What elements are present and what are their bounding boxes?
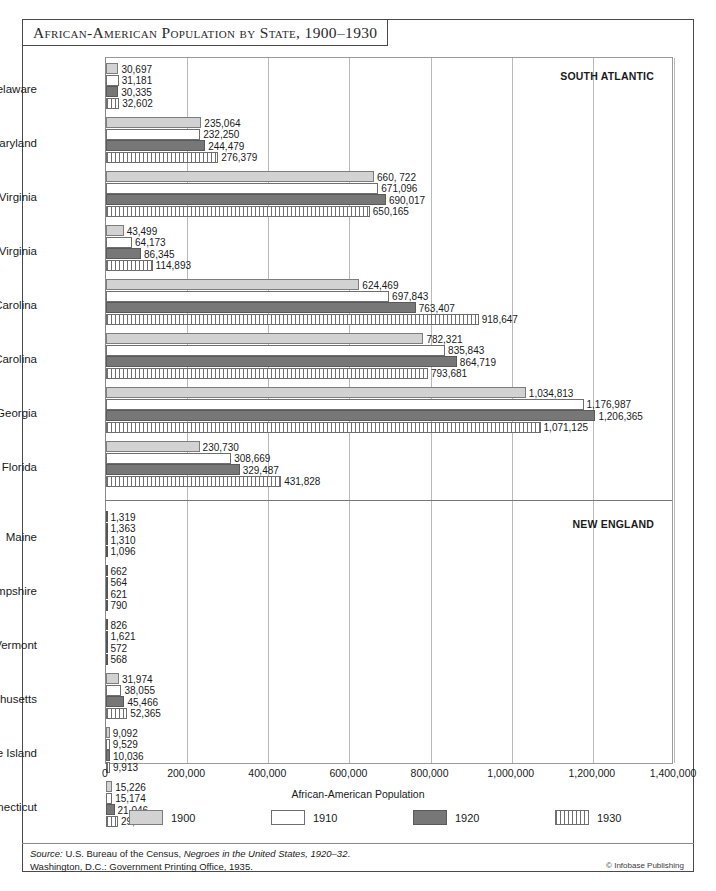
bar-value-label: 1,034,813: [529, 388, 574, 399]
bar-value-label: 1,071,125: [544, 422, 589, 433]
source-suffix: .: [347, 848, 350, 859]
bar-value-label: 64,173: [135, 237, 166, 248]
source-note: Source: U.S. Bureau of the Census, Negro…: [30, 847, 350, 873]
bar-1920: [106, 194, 386, 205]
source-title-italic: Negroes in the United States, 1920–32: [184, 848, 348, 859]
bar-value-label: 31,181: [122, 75, 153, 86]
bar-value-label: 621: [111, 589, 128, 600]
chart-page: African-American Population by State, 19…: [0, 0, 716, 891]
legend-item-1910: 1910: [247, 810, 389, 825]
bar-1900: [106, 171, 374, 182]
bar-value-label: 31,974: [122, 674, 153, 685]
bar-value-label: 568: [111, 654, 128, 665]
source-mid: U.S. Bureau of the Census,: [63, 848, 184, 859]
bar-value-label: 1,310: [111, 535, 136, 546]
state-label: South Carolina: [0, 353, 37, 365]
legend-swatch-1920: [413, 810, 447, 825]
bar-1900: [106, 387, 526, 398]
bar-1920: [106, 642, 108, 653]
source-line2: Washington, D.C.: Government Printing Of…: [30, 860, 350, 873]
x-tick-label: 600,000: [329, 767, 367, 779]
legend-swatch-1910: [271, 810, 305, 825]
bar-1920: [106, 140, 205, 151]
bar-value-label: 276,379: [221, 152, 257, 163]
legend-swatch-1930: [555, 810, 589, 825]
legend-label-1920: 1920: [455, 812, 479, 824]
x-tick-label: 1,400,000: [650, 767, 697, 779]
bar-1930: [106, 152, 218, 163]
bar-value-label: 1,621: [111, 631, 136, 642]
legend-swatch-1900: [129, 810, 163, 825]
bar-1910: [106, 453, 231, 464]
bar-value-label: 235,064: [204, 118, 240, 129]
bar-value-label: 671,096: [381, 183, 417, 194]
state-label: Maryland: [0, 137, 37, 149]
bar-1930: [106, 260, 153, 271]
x-tick-label: 1,000,000: [487, 767, 534, 779]
legend-label-1900: 1900: [171, 812, 195, 824]
bar-value-label: 650,165: [373, 206, 409, 217]
chart-legend: 1900191019201930: [105, 810, 673, 825]
x-tick-label: 800,000: [411, 767, 449, 779]
bar-value-label: 826: [111, 620, 128, 631]
bar-1900: [106, 117, 201, 128]
bar-1920: [106, 696, 124, 707]
region-separator: [106, 500, 672, 501]
bar-1920: [106, 302, 416, 313]
bar-value-label: 1,319: [111, 512, 136, 523]
bar-1920: [106, 588, 108, 599]
bar-1900: [106, 441, 200, 452]
bar-1900: [106, 333, 423, 344]
bar-value-label: 624,469: [362, 280, 398, 291]
bar-1900: [106, 673, 119, 684]
bar-value-label: 38,055: [124, 685, 155, 696]
bar-value-label: 431,828: [284, 476, 320, 487]
state-label: Massachusetts: [0, 693, 37, 705]
bar-value-label: 918,647: [482, 314, 518, 325]
bar-1900: [106, 279, 359, 290]
legend-label-1910: 1910: [313, 812, 337, 824]
publisher-credit: © Infobase Publishing: [606, 861, 684, 870]
bar-value-label: 52,365: [130, 708, 161, 719]
plot-area: SOUTH ATLANTIC30,69731,18130,33532,60223…: [105, 57, 673, 764]
bar-1920: [106, 248, 141, 259]
source-label: Source:: [30, 848, 63, 859]
state-label: Delaware: [0, 83, 37, 95]
bar-value-label: 660, 722: [377, 172, 416, 183]
bar-1920: [106, 464, 240, 475]
bar-1900: [106, 727, 110, 738]
bar-1930: [106, 314, 479, 325]
bar-value-label: 790: [111, 600, 128, 611]
x-axis-title: African-American Population: [0, 788, 716, 800]
bar-value-label: 244,479: [208, 141, 244, 152]
region-label: SOUTH ATLANTIC: [560, 70, 654, 82]
chart-title-box: African-American Population by State, 19…: [22, 19, 388, 46]
bar-value-label: 230,730: [203, 442, 239, 453]
bar-value-label: 10,036: [113, 751, 144, 762]
region-label: NEW ENGLAND: [572, 518, 654, 530]
bar-value-label: 835,843: [448, 345, 484, 356]
bar-1900: [106, 63, 118, 74]
bar-value-label: 43,499: [127, 226, 158, 237]
bar-1910: [106, 685, 121, 696]
bar-1920: [106, 356, 457, 367]
bar-1910: [106, 577, 108, 588]
bar-value-label: 232,250: [203, 129, 239, 140]
bar-value-label: 763,407: [419, 303, 455, 314]
state-label: North Carolina: [0, 299, 37, 311]
bar-1910: [106, 739, 110, 750]
state-label: Florida: [0, 461, 37, 473]
bar-1930: [106, 708, 127, 719]
bar-1900: [106, 225, 124, 236]
bar-1910: [106, 75, 119, 86]
state-label: Vermont: [0, 639, 37, 651]
bar-1910: [106, 237, 132, 248]
legend-item-1900: 1900: [105, 810, 247, 825]
state-label: New Hampshire: [0, 585, 37, 597]
legend-item-1920: 1920: [389, 810, 531, 825]
bar-value-label: 697,843: [392, 291, 428, 302]
state-label: Maine: [0, 531, 37, 543]
bar-1910: [106, 523, 108, 534]
bar-value-label: 86,345: [144, 249, 175, 260]
bar-1920: [106, 410, 595, 421]
